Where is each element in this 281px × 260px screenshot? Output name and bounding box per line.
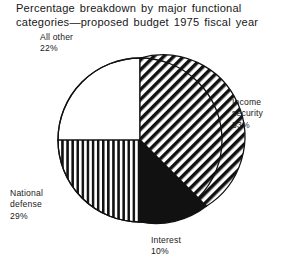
- pie-label-interest: Interest 10%: [151, 235, 181, 258]
- chart-page: Percentage breakdown by major functional…: [0, 0, 281, 260]
- pie-label-income-security: Income security 33%: [232, 97, 263, 131]
- pie-slice-national-defense: [58, 140, 140, 222]
- pie-label-all-other: All other 22%: [40, 32, 73, 55]
- pie-label-national-defense: National defense 29%: [10, 188, 43, 222]
- pie-slice-all-other: [58, 58, 140, 140]
